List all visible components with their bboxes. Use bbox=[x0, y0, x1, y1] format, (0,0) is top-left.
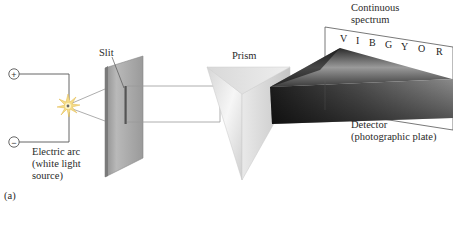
spectrum-letter-g: G bbox=[385, 39, 392, 50]
negative-terminal-icon: − bbox=[9, 137, 19, 148]
electric-arc-label-line3: source) bbox=[32, 170, 63, 182]
detector-label-line1: Detector bbox=[351, 119, 387, 131]
electric-arc-label-line2: (white light bbox=[32, 158, 81, 170]
spectrum-letter-v: V bbox=[340, 33, 348, 44]
continuous-spectrum-label-line2: spectrum bbox=[351, 14, 390, 26]
circuit-wires bbox=[19, 74, 69, 142]
svg-text:+: + bbox=[11, 70, 16, 80]
svg-text:−: − bbox=[11, 138, 16, 148]
panel-label: (a) bbox=[4, 190, 16, 202]
positive-terminal-icon: + bbox=[9, 69, 19, 80]
spectroscope-diagram: + − V bbox=[0, 0, 453, 225]
electric-arc-starburst-icon bbox=[57, 94, 80, 117]
detector-label-line2: (photographic plate) bbox=[351, 131, 436, 143]
spectrum-letter-y: Y bbox=[401, 41, 408, 52]
spectrum-letter-o: O bbox=[418, 43, 425, 54]
prism-label: Prism bbox=[232, 50, 257, 62]
slit bbox=[125, 86, 127, 124]
slit-label: Slit bbox=[99, 47, 114, 59]
spectrum-letter-r: R bbox=[436, 46, 443, 57]
continuous-spectrum-label-line1: Continuous bbox=[351, 2, 399, 14]
slit-plate bbox=[105, 56, 143, 177]
spectrum-letter-b: B bbox=[369, 37, 376, 48]
spectrum-letter-i: I bbox=[356, 35, 359, 46]
electric-arc-label-line1: Electric arc bbox=[32, 146, 80, 158]
